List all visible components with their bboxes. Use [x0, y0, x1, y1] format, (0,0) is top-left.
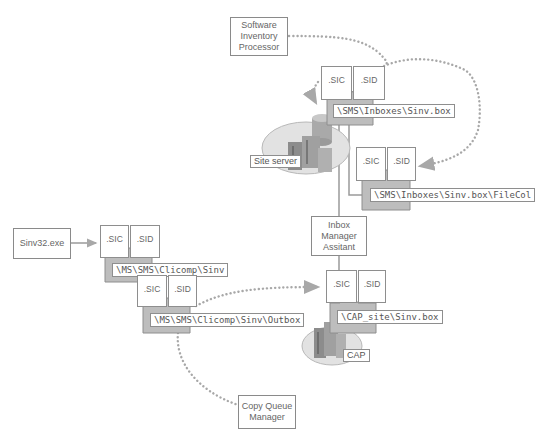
- cqm-dotted: [178, 333, 238, 405]
- sid-file-card: .SID: [353, 66, 385, 100]
- sinv32-box: Sinv32.exe: [13, 228, 71, 259]
- sid-file-card: .SID: [387, 147, 416, 181]
- inbox-manager-assistant-box: Inbox Manager Assitant: [311, 216, 367, 256]
- client-outbox-path-label: \MS\SMS\Clicomp\Sinv\Outbox: [150, 313, 304, 327]
- cap-label: CAP: [343, 349, 370, 362]
- software-inventory-processor-box: Software Inventory Processor: [230, 17, 288, 56]
- filecol-path-label: \SMS\Inboxes\Sinv.box\FileCol: [370, 188, 535, 202]
- outbox-to-cap-dotted: [196, 287, 318, 306]
- sic-file-card: .SIC: [326, 270, 357, 303]
- sid-file-card: .SID: [358, 270, 386, 303]
- sid-file-card: .SID: [130, 225, 160, 258]
- sic-file-card: .SIC: [137, 275, 167, 307]
- sid-file-card: .SID: [168, 275, 197, 307]
- site-server-label: Site server: [250, 155, 301, 168]
- inbox-manager-assistant-label: Inbox Manager Assitant: [313, 220, 365, 253]
- sinv32-label: Sinv32.exe: [20, 238, 65, 249]
- copy-queue-manager-box: Copy Queue Manager: [238, 395, 296, 429]
- site-inbox-path-label: \SMS\Inboxes\Sinv.box: [333, 104, 455, 118]
- diagram-canvas: Software Inventory Processor Inbox Manag…: [0, 0, 547, 441]
- sic-file-card: .SIC: [321, 66, 352, 100]
- software-inventory-processor-label: Software Inventory Processor: [232, 20, 286, 53]
- sic-file-card: .SIC: [100, 225, 129, 258]
- sic-file-card: .SIC: [356, 147, 386, 181]
- copy-queue-manager-label: Copy Queue Manager: [240, 401, 294, 423]
- connector-layer: [0, 0, 547, 441]
- cap-inbox-path-label: \CAP_site\Sinv.box: [337, 310, 443, 324]
